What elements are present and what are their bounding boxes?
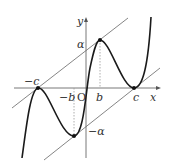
lower-tangent-line — [44, 68, 160, 160]
y-axis-label: y — [76, 15, 84, 28]
label-c: c — [133, 91, 139, 104]
function-curve — [22, 17, 151, 158]
function-graph-diagram: y x O −c −b b c α −α — [0, 0, 169, 166]
label-neg-b: −b — [59, 91, 75, 104]
x-axis-label: x — [150, 91, 157, 104]
label-alpha: α — [77, 38, 85, 51]
point-c — [132, 86, 136, 90]
point-neg-b-min — [72, 134, 76, 138]
label-neg-alpha: −α — [88, 125, 105, 138]
label-b: b — [96, 91, 103, 104]
label-neg-c: −c — [24, 75, 39, 88]
origin-label: O — [77, 91, 86, 104]
point-b-max — [98, 38, 102, 42]
